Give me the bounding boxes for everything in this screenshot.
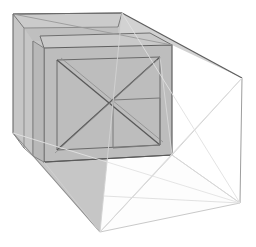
face-inner-left-sliver [33, 41, 44, 162]
inner-box-group [33, 33, 172, 162]
rim-top-band [13, 13, 122, 28]
box-wireframe-canvas [0, 0, 256, 247]
scene-root [0, 0, 256, 247]
